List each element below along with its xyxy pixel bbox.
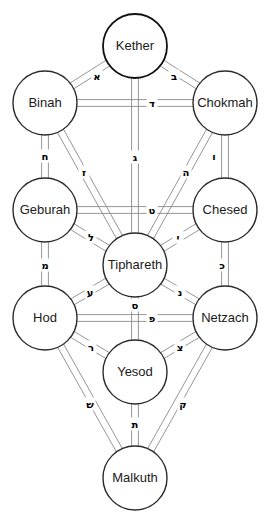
sephirah-label-kether: Kether [116,38,155,53]
letter-aleph: א [92,70,103,83]
letter-tzaddi: צ [175,341,186,354]
sephirah-yesod[interactable]: Yesod [103,340,167,404]
path-teth [76,207,194,214]
path-aleph [69,60,110,90]
hebrew-letter-daleth: ד [149,98,155,109]
letter-qoph: ק [178,398,189,411]
letter-zayin: ז [79,166,90,179]
sephirah-tiphareth[interactable]: Tiphareth [103,233,167,297]
hebrew-letter-yod: י [177,232,180,243]
sephirah-malkuth[interactable]: Malkuth [103,446,167,510]
hebrew-letter-mem: מ [41,260,48,271]
hebrew-letter-teth: ט [149,205,156,216]
hebrew-letter-aleph: א [93,71,100,82]
hebrew-letter-he: ה [183,167,190,178]
sephirah-label-malkuth: Malkuth [112,470,158,485]
hebrew-letter-ayin: ע [87,287,94,298]
letter-beth: ב [169,70,180,83]
sephirah-label-chokmah: Chokmah [197,95,253,110]
hebrew-letter-cheth: ח [42,151,49,162]
hebrew-letter-vav: ו [212,151,215,162]
path-daleth [76,100,194,107]
letter-gimel: ג [130,151,141,164]
sephirah-label-yesod: Yesod [117,364,153,379]
path-vav [222,134,229,179]
sephirah-label-chesed: Chesed [203,202,248,217]
hebrew-letter-shin: ש [86,399,94,410]
letter-shin: ש [85,398,96,411]
sephirah-chesed[interactable]: Chesed [193,178,257,242]
letter-teth: ט [147,204,158,217]
sephirah-netzach[interactable]: Netzach [193,286,257,350]
letter-he: ה [181,166,192,179]
letter-daleth: ד [147,97,158,110]
sephirah-label-hod: Hod [33,310,57,325]
sephirah-kether[interactable]: Kether [103,14,167,78]
sephirah-label-netzach: Netzach [201,310,249,325]
letter-yod: י [173,231,184,244]
sephirah-label-tiphareth: Tiphareth [108,257,162,272]
sephirah-label-geburah: Geburah [20,202,71,217]
hebrew-letter-qoph: ק [179,399,186,410]
hebrew-letter-zayin: ז [82,167,86,178]
letter-mem: מ [40,259,51,272]
hebrew-letter-resh: ר [88,342,94,353]
hebrew-letter-tzaddi: צ [177,342,184,353]
path-beth [159,60,200,90]
letter-vav: ו [209,150,220,163]
hebrew-letter-beth: ב [171,71,177,82]
letter-resh: ר [86,341,97,354]
hebrew-letter-nun: נ [178,287,183,298]
sephirah-label-binah: Binah [28,95,61,110]
sephirah-chokmah[interactable]: Chokmah [193,71,257,135]
tree-of-life-diagram: KetherBinahChokmahGeburahChesedTiphareth… [0,0,270,527]
hebrew-letter-tav: ת [132,419,139,430]
hebrew-letter-lamed: ל [88,232,94,243]
sephirah-geburah[interactable]: Geburah [13,178,77,242]
hebrew-letter-pe: פ [149,313,156,324]
letter-lamed: ל [86,231,97,244]
sephirah-binah[interactable]: Binah [13,71,77,135]
hebrew-letter-kaph: כ [219,260,225,271]
hebrew-letter-samekh: ס [132,300,139,311]
hebrew-letter-gimel: ג [133,152,138,163]
letter-pe: פ [147,312,158,325]
letter-tav: ת [130,418,141,431]
letter-ayin: ע [85,286,96,299]
letter-cheth: ח [40,150,51,163]
sephirah-hod[interactable]: Hod [13,286,77,350]
tree-of-life-canvas: KetherBinahChokmahGeburahChesedTiphareth… [0,0,270,527]
letter-kaph: כ [217,259,228,272]
letter-nun: נ [175,286,186,299]
path-pe [76,315,194,322]
letter-samekh: ס [130,299,141,312]
